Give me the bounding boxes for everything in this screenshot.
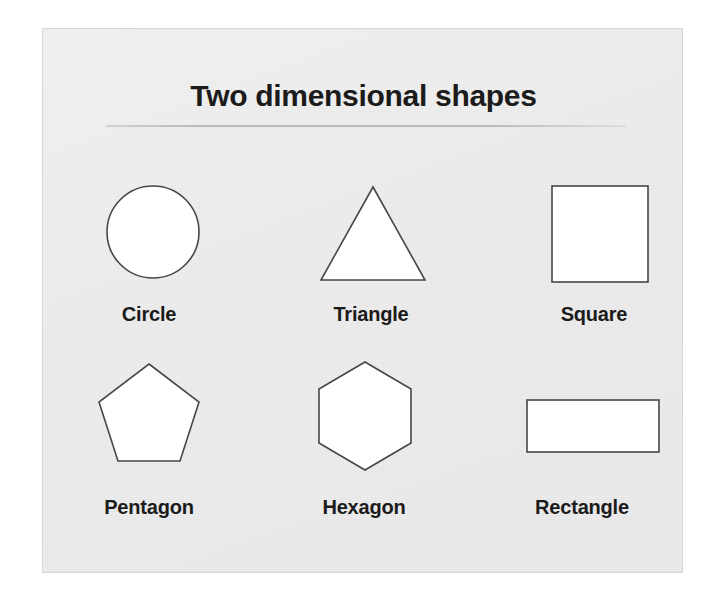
circle-icon [105, 184, 201, 280]
shape-figure-pentagon [44, 354, 254, 474]
shape-cell-circle: Circle [44, 179, 254, 299]
slide-panel: Two dimensional shapes Circle Triangle [42, 28, 683, 573]
shape-label-circle: Circle [44, 304, 254, 324]
shape-figure-circle [44, 179, 254, 299]
shape-label-triangle: Triangle [266, 304, 476, 324]
shape-label-square: Square [489, 304, 699, 324]
square-icon [550, 184, 650, 284]
shape-figure-square [479, 179, 689, 299]
shape-cell-pentagon: Pentagon [44, 354, 254, 474]
rectangle-icon [525, 398, 661, 454]
shape-cell-triangle: Triangle [266, 179, 476, 299]
shape-label-pentagon: Pentagon [44, 497, 254, 517]
shape-figure-rectangle [463, 354, 673, 474]
hexagon-icon [316, 360, 414, 472]
title-divider [106, 125, 626, 127]
triangle-icon [318, 184, 428, 284]
shape-figure-hexagon [259, 354, 469, 474]
shape-label-rectangle: Rectangle [477, 497, 687, 517]
shape-cell-square: Square [479, 179, 689, 299]
shape-figure-triangle [266, 179, 476, 299]
pentagon-icon [96, 362, 202, 464]
shape-cell-rectangle: Rectangle [463, 354, 673, 474]
poster-canvas: Two dimensional shapes Circle Triangle [0, 0, 722, 609]
page-title: Two dimensional shapes [43, 81, 684, 111]
shape-cell-hexagon: Hexagon [259, 354, 469, 474]
shape-label-hexagon: Hexagon [259, 497, 469, 517]
